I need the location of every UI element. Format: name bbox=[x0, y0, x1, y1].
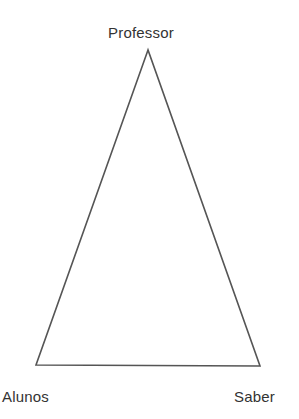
vertex-label-professor: Professor bbox=[108, 24, 174, 42]
triangle-shape bbox=[0, 0, 299, 419]
vertex-label-saber: Saber bbox=[234, 388, 275, 406]
vertex-label-alunos: Alunos bbox=[2, 388, 49, 406]
didactic-triangle-diagram: Professor Alunos Saber bbox=[0, 0, 299, 419]
triangle-outline bbox=[36, 50, 260, 366]
